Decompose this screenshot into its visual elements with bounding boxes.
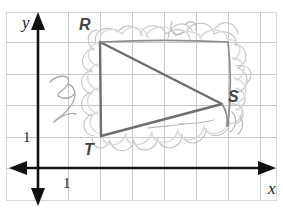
vertex-label-S: S [228,89,239,105]
y-axis-label: y [22,14,30,31]
vertex-label-R: R [79,17,91,33]
x-axis-tick-label: 1 [63,176,71,191]
geometry-figure-svg [0,0,283,209]
x-axis-label: x [268,180,276,197]
y-axis-tick-label: 1 [23,130,31,145]
triangle-edge-TR [100,42,101,136]
figure-canvas: y x 1 1 R S T [0,0,283,209]
vertex-label-T: T [84,142,94,158]
